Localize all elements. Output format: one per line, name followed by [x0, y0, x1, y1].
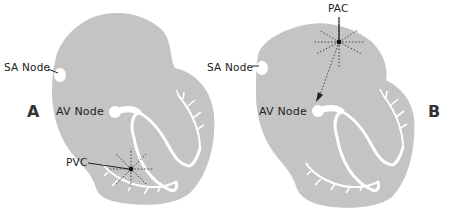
pac-label: PAC: [328, 3, 349, 14]
bundle-of-his-b: [318, 108, 341, 111]
av-node-label-b: AV Node: [259, 106, 307, 117]
sa-node-label-b: SA Node: [207, 62, 253, 73]
panel-letter-b: B: [428, 104, 440, 120]
pac-focus-dot: [337, 40, 342, 45]
diagram: SA Node A AV Node PVC: [0, 0, 451, 211]
sa-node-b: [256, 61, 268, 75]
heart-b-illustration: [0, 0, 451, 211]
